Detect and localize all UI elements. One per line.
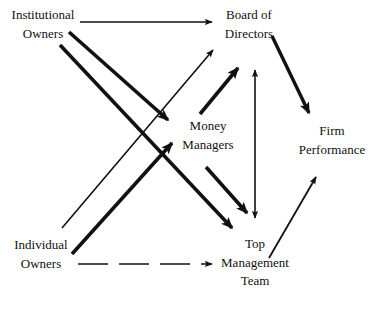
node-board-of-directors: Board of Directors: [213, 6, 285, 43]
node-top-management-team-line-3: Team: [207, 272, 303, 291]
node-money-managers-line-2: Managers: [180, 136, 236, 155]
node-top-management-team-line-1: Top: [207, 235, 303, 254]
node-board-of-directors-line-2: Directors: [213, 25, 285, 44]
node-individual-owners: Individual Owners: [4, 236, 78, 273]
node-institutional-owners-line-1: Institutional: [4, 6, 82, 25]
node-money-managers: Money Managers: [180, 117, 236, 154]
node-individual-owners-line-2: Owners: [4, 255, 78, 274]
node-top-management-team: Top Management Team: [207, 235, 303, 291]
node-firm-performance: Firm Performance: [293, 122, 371, 159]
node-individual-owners-line-1: Individual: [4, 236, 78, 255]
node-firm-performance-line-1: Firm: [293, 122, 371, 141]
node-board-of-directors-line-1: Board of: [213, 6, 285, 25]
node-firm-performance-line-2: Performance: [293, 141, 371, 160]
edge-board-of-directors-to-firm-performance: [272, 36, 309, 113]
edge-money-managers-to-board-of-directors: [200, 68, 238, 114]
node-institutional-owners-line-2: Owners: [4, 25, 82, 44]
node-institutional-owners: Institutional Owners: [4, 6, 82, 43]
diagram-canvas: Institutional Owners Board of Directors …: [0, 0, 377, 313]
node-money-managers-line-1: Money: [180, 117, 236, 136]
node-top-management-team-line-2: Management: [207, 254, 303, 273]
